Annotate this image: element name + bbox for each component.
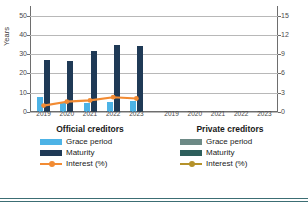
x-tick-label: 2021 — [206, 108, 229, 120]
x-axis-labels-official: 20192020202120222023 — [32, 108, 148, 120]
y-tick-mark-right — [278, 54, 281, 55]
y-tick-mark-right — [278, 112, 281, 113]
legend-line-swatch — [40, 161, 62, 167]
legend-item[interactable]: Interest (%) — [40, 160, 152, 168]
legend-item[interactable]: Maturity — [180, 149, 292, 157]
y-tick-label-left: 40 — [19, 31, 27, 38]
legend-private-creditors: Private creditors Grace periodMaturityIn… — [168, 124, 292, 171]
legend-label: Grace period — [66, 138, 112, 146]
legend-marker-dot — [189, 161, 195, 167]
y-axis-left-line — [30, 6, 31, 112]
x-tick-label: 2019 — [32, 108, 55, 120]
y-tick-label-right: 0 — [281, 108, 285, 115]
x-tick-label: 2022 — [102, 108, 125, 120]
y-tick-label-right: 6 — [281, 69, 285, 76]
y-tick-label-left: 10 — [19, 89, 27, 96]
legend-rows-official: Grace periodMaturityInterest (%) — [28, 138, 152, 168]
y-tick-label-right: 15 — [281, 12, 289, 19]
legend-official-creditors: Official creditors Grace periodMaturityI… — [28, 124, 152, 171]
footer-divider-secondary — [0, 201, 308, 202]
y-tick-mark-left — [27, 54, 30, 55]
y-tick-label-left: 50 — [19, 12, 27, 19]
x-tick-label: 2023 — [253, 108, 276, 120]
interest-marker — [64, 99, 69, 104]
legend-color-swatch — [40, 139, 62, 145]
legend-label: Grace period — [206, 138, 252, 146]
legend-item[interactable]: Maturity — [40, 149, 152, 157]
legend-title-official: Official creditors — [28, 124, 152, 134]
legend-item[interactable]: Grace period — [180, 138, 292, 146]
x-axis-labels-private: 20192020202120222023 — [160, 108, 276, 120]
y-axis-left-title: Years — [2, 27, 11, 46]
x-tick-label: 2022 — [230, 108, 253, 120]
y-tick-mark-left — [27, 93, 30, 94]
y-axis-right-line — [277, 6, 278, 112]
panel-official-creditors — [32, 6, 148, 112]
legend-label: Maturity — [206, 149, 234, 157]
y-tick-mark-right — [278, 93, 281, 94]
y-tick-label-left: 30 — [19, 50, 27, 57]
legend-item[interactable]: Interest (%) — [180, 160, 292, 168]
y-tick-mark-right — [278, 73, 281, 74]
legend-title-private: Private creditors — [168, 124, 292, 134]
plot-area: 01020304050 03691215 — [30, 6, 278, 112]
interest-marker — [88, 98, 93, 103]
y-tick-label-right: 9 — [281, 50, 285, 57]
interest-marker — [111, 95, 116, 100]
footer-divider — [0, 198, 308, 199]
y-tick-label-right: 3 — [281, 89, 285, 96]
legend-color-swatch — [40, 150, 62, 156]
legend-item[interactable]: Grace period — [40, 138, 152, 146]
legend-label: Maturity — [66, 149, 94, 157]
y-tick-mark-right — [278, 16, 281, 17]
x-tick-label: 2020 — [55, 108, 78, 120]
legend-line-swatch — [180, 161, 202, 167]
x-tick-label: 2020 — [183, 108, 206, 120]
legend-color-swatch — [180, 139, 202, 145]
interest-marker — [134, 96, 139, 101]
legend-marker-dot — [49, 161, 55, 167]
legend-color-swatch — [180, 150, 202, 156]
panel-private-creditors — [160, 6, 276, 112]
legend-rows-private: Grace periodMaturityInterest (%) — [168, 138, 292, 168]
x-tick-label: 2019 — [160, 108, 183, 120]
y-tick-mark-right — [278, 35, 281, 36]
x-tick-label: 2021 — [78, 108, 101, 120]
y-tick-mark-left — [27, 112, 30, 113]
y-tick-label-right: 12 — [281, 31, 289, 38]
legend-label: Interest (%) — [206, 160, 247, 168]
interest-line-official — [32, 6, 148, 112]
interest-line-private — [160, 6, 276, 112]
legend-label: Interest (%) — [66, 160, 107, 168]
x-tick-label: 2023 — [125, 108, 148, 120]
y-tick-mark-left — [27, 73, 30, 74]
y-tick-mark-left — [27, 16, 30, 17]
y-tick-label-left: 20 — [19, 69, 27, 76]
y-tick-mark-left — [27, 35, 30, 36]
chart-figure: Years Interest (%) 01020304050 03691215 … — [0, 0, 308, 202]
